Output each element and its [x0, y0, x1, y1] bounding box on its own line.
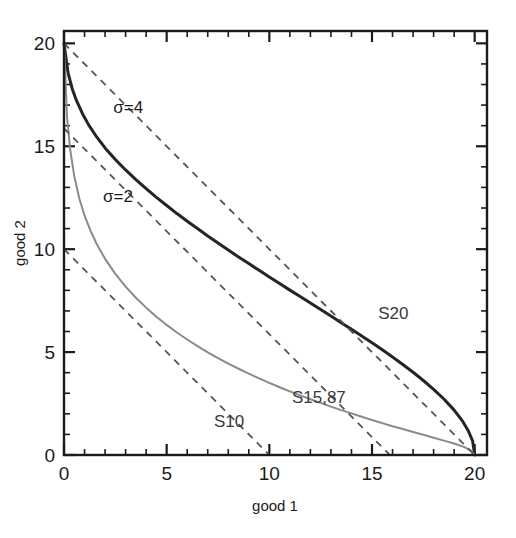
y-tick-label: 0: [44, 445, 55, 466]
budget-label-S10: S10: [214, 412, 244, 431]
chart-figure: 0510152005101520σ=4σ=2S20S15,87S10 good …: [0, 0, 516, 538]
x-tick-label: 15: [361, 463, 382, 484]
series-label-sigma=4: σ=4: [113, 98, 143, 117]
series-label-sigma=2: σ=2: [103, 187, 133, 206]
x-tick-label: 10: [259, 463, 280, 484]
isoquant-chart: 0510152005101520σ=4σ=2S20S15,87S10 good …: [0, 0, 516, 538]
budget-label-S15,87: S15,87: [292, 388, 346, 407]
y-tick-label: 20: [34, 33, 55, 54]
y-axis-title: good 2: [11, 220, 28, 266]
y-tick-label: 10: [34, 239, 55, 260]
y-tick-label: 15: [34, 136, 55, 157]
y-tick-label: 5: [44, 342, 55, 363]
x-axis-title: good 1: [252, 497, 298, 514]
x-tick-label: 5: [161, 463, 172, 484]
x-tick-label: 0: [59, 463, 70, 484]
budget-label-S20: S20: [378, 304, 408, 323]
x-tick-label: 20: [464, 463, 485, 484]
